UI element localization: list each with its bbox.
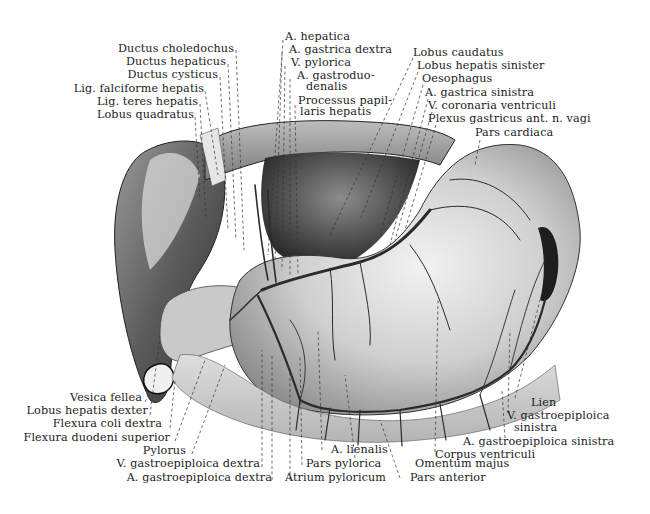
label-atrium-pyloricum: Atrium pyloricum — [285, 471, 386, 484]
vesica-fellea — [144, 364, 174, 394]
label-flexura-duodeni-superior: Flexura duodeni superior — [10, 431, 170, 444]
label-plexus-gastricus: Plexus gastricus ant. n. vagi — [428, 112, 591, 125]
label-lobus-hepatis-dexter: Lobus hepatis dexter — [20, 404, 148, 417]
label-pars-pylorica: Pars pylorica — [306, 457, 381, 470]
label-v-coronaria-ventriculi: V. coronaria ventriculi — [428, 99, 556, 112]
label-ductus-hepaticus: Ductus hepaticus — [60, 55, 226, 68]
label-a-gastrica-sinistra: A. gastrica sinistra — [425, 86, 534, 99]
label-v-gastroepiploica-sinistra-cont: sinistra — [514, 421, 557, 434]
label-lig-falciforme-hepatis: Lig. falciforme hepatis — [40, 82, 204, 95]
label-lobus-caudatus: Lobus caudatus — [413, 46, 504, 59]
label-v-gastroepiploica-dextra: V. gastroepiploica dextra — [60, 457, 260, 470]
label-a-gastroepiploica-sinistra: A. gastroepiploica sinistra — [463, 435, 614, 448]
label-ductus-cysticus: Ductus cysticus — [60, 68, 218, 81]
label-a-gastroduodenalis-cont: denalis — [306, 80, 347, 93]
label-ductus-choledochus: Ductus choledochus — [60, 42, 234, 55]
label-processus-papillaris-cont: laris hepatis — [300, 105, 371, 118]
label-corpus-ventriculi: Corpus ventriculi — [435, 448, 535, 461]
label-pars-cardiaca: Pars cardiaca — [475, 126, 553, 139]
label-oesophagus: Oesophagus — [422, 72, 492, 85]
label-a-lienalis: A. lienalis — [331, 443, 388, 456]
label-flexura-coli-dextra: Flexura coli dextra — [20, 417, 162, 430]
label-a-gastroepiploica-dextra: A. gastroepiploica dextra — [60, 471, 272, 484]
label-a-gastrica-dextra: A. gastrica dextra — [289, 43, 392, 56]
label-lobus-hepatis-sinister: Lobus hepatis sinister — [417, 59, 544, 72]
label-lobus-quadratus: Lobus quadratus — [40, 108, 194, 121]
anatomical-figure: Ductus choledochus Ductus hepaticus Duct… — [0, 0, 650, 514]
label-pars-anterior: Pars anterior — [410, 471, 486, 484]
label-v-pylorica: V. pylorica — [291, 56, 351, 69]
label-vesica-fellea: Vesica fellea — [20, 391, 142, 404]
label-a-hepatica: A. hepatica — [285, 30, 350, 43]
label-lien: Lien — [531, 396, 556, 409]
label-lig-teres-hepatis: Lig. teres hepatis — [40, 95, 198, 108]
label-pylorus: Pylorus — [100, 444, 186, 457]
